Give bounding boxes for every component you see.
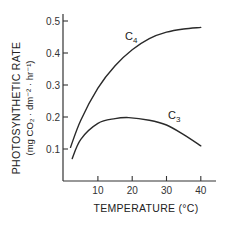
y-axis-units: (mg CO₂ · dm⁻² · hr⁻¹) <box>24 61 35 156</box>
y-tick-label: 0.1 <box>46 144 60 155</box>
y-axis-ticks: 0.10.20.30.40.5 <box>46 16 68 155</box>
c4-series-label: C4 <box>125 30 138 45</box>
y-tick-label: 0.2 <box>46 112 60 123</box>
x-tick-label: 10 <box>92 185 104 196</box>
c3-series-label: C3 <box>168 109 181 124</box>
photosynthetic-rate-chart: 10203040 0.10.20.30.40.5 C4 C3 TEMPERATU… <box>0 0 227 226</box>
axes <box>63 14 216 181</box>
x-tick-label: 20 <box>127 185 139 196</box>
x-tick-label: 40 <box>195 185 207 196</box>
x-axis-title: TEMPERATURE (°C) <box>93 202 198 214</box>
y-tick-label: 0.5 <box>46 16 60 27</box>
y-tick-label: 0.4 <box>46 48 60 59</box>
c3-curve <box>72 118 201 159</box>
y-axis-title: PHOTOSYNTHETIC RATE <box>10 42 22 175</box>
x-axis-ticks: 10203040 <box>92 176 206 196</box>
x-tick-label: 30 <box>161 185 173 196</box>
y-tick-label: 0.3 <box>46 80 60 91</box>
